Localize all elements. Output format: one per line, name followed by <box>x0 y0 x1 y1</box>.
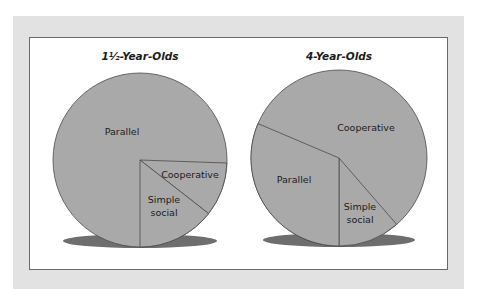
pie-chart-toddlers: 1½-Year-Olds Parallel Cooperative Simple… <box>53 50 227 248</box>
chart-title-toddlers: 1½-Year-Olds <box>101 50 178 62</box>
label-cooperative: Cooperative <box>337 122 395 133</box>
label-parallel: Parallel <box>277 174 312 185</box>
chart-title-preschoolers: 4-Year-Olds <box>305 50 372 62</box>
label-simple: Simple <box>148 194 181 205</box>
label-parallel: Parallel <box>105 126 140 137</box>
label-social: social <box>150 207 177 218</box>
pie-chart-preschoolers: 4-Year-Olds Cooperative Parallel Simple … <box>251 50 427 247</box>
label-cooperative: Cooperative <box>161 169 219 180</box>
label-simple: Simple <box>344 201 377 212</box>
label-social: social <box>346 214 373 225</box>
pie-charts: 1½-Year-Olds Parallel Cooperative Simple… <box>0 0 479 296</box>
